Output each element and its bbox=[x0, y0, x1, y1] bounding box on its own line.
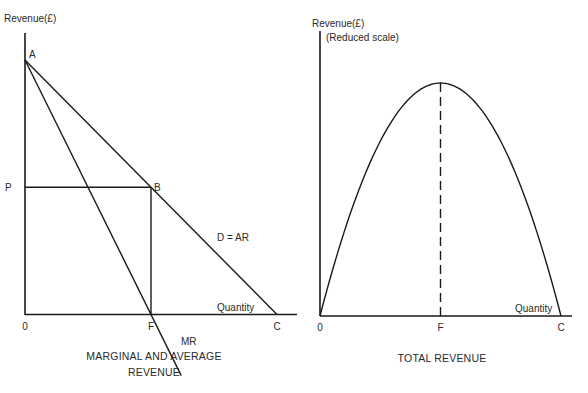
right-x-tick-c: C bbox=[557, 322, 564, 333]
point-label-b: B bbox=[154, 182, 161, 193]
left-x-tick-c: C bbox=[273, 321, 280, 332]
left-caption-line-1: MARGINAL AND AVERAGE bbox=[86, 350, 221, 362]
right-y-axis-label: Revenue(£) bbox=[312, 18, 364, 29]
right-caption: TOTAL REVENUE bbox=[398, 352, 487, 364]
revenue-diagrams: Revenue(£) Quantity ABP 0FC MR D = AR MA… bbox=[0, 0, 588, 393]
right-x-axis-label: Quantity bbox=[515, 303, 552, 314]
demand-curve-label: D = AR bbox=[217, 232, 249, 243]
marginal-average-revenue-panel: Revenue(£) Quantity ABP 0FC MR D = AR MA… bbox=[4, 13, 297, 378]
mr-line bbox=[25, 60, 181, 376]
left-y-axis-label: Revenue(£) bbox=[4, 13, 56, 24]
right-x-tick-f: F bbox=[437, 322, 443, 333]
left-x-tick-0: 0 bbox=[22, 321, 28, 332]
right-x-tick-0: 0 bbox=[317, 322, 323, 333]
point-label-a: A bbox=[29, 49, 36, 60]
mr-curve-label: MR bbox=[181, 336, 197, 347]
left-x-tick-f: F bbox=[148, 321, 154, 332]
right-y-axis-note: (Reduced scale) bbox=[326, 32, 399, 43]
left-caption-line-2: REVENUE bbox=[128, 366, 180, 378]
point-label-p: P bbox=[5, 182, 12, 193]
left-x-axis-label: Quantity bbox=[217, 302, 254, 313]
total-revenue-panel: Revenue(£) (Reduced scale) Quantity 0FC … bbox=[312, 18, 572, 364]
